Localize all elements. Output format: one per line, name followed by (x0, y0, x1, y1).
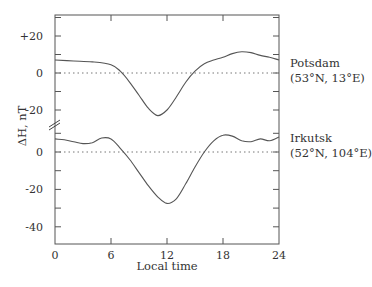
chart: 06121824 +200-200-20-40 Local time ΔH, n… (0, 0, 372, 287)
y-tick-label: -40 (25, 221, 43, 234)
series-label-irkutsk-coords: (52°N, 104°E) (290, 146, 372, 160)
x-tick-label: 0 (52, 249, 59, 262)
curve-irkutsk (55, 135, 279, 204)
y-tick-label: -20 (25, 183, 43, 196)
series-label-irkutsk: Irkutsk (290, 131, 333, 145)
y-axis-ticks: +200-200-20-40 (20, 18, 279, 234)
y-tick-label: 0 (36, 67, 43, 80)
y-axis-title: ΔH, nT (15, 105, 29, 146)
y-tick-label: 0 (36, 146, 43, 159)
series-label-potsdam-coords: (53°N, 13°E) (290, 71, 365, 85)
plot-frame (55, 15, 279, 244)
y-tick-label: +20 (20, 30, 43, 43)
x-axis-title: Local time (136, 259, 197, 273)
series-label-potsdam: Potsdam (290, 56, 340, 70)
zero-baselines (55, 73, 279, 152)
x-tick-label: 18 (216, 249, 230, 262)
x-tick-label: 6 (108, 249, 115, 262)
curve-potsdam (55, 52, 279, 116)
data-curves (55, 52, 279, 204)
x-tick-label: 24 (272, 249, 286, 262)
